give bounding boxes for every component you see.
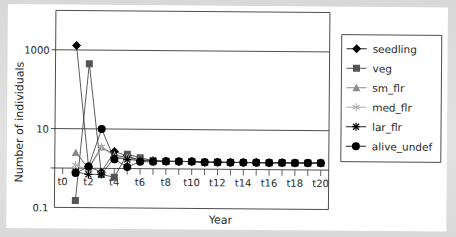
alive_undef-marker [291,159,299,167]
legend-veg-marker [353,65,360,72]
legend-label: lar_flr [372,121,403,134]
legend-lar_flr-marker [352,123,360,131]
alive_undef-marker [162,157,170,165]
alive_undef-marker [149,158,157,166]
lar_flr-marker [123,155,131,163]
legend-label: sm_flr [372,82,405,95]
x-axis-label: Year [208,214,233,227]
legend: seedlingvegsm_flrmed_flrlar_flralive_und… [341,35,442,163]
x-tick-label: t18 [286,178,303,189]
scan-background: 0.1101000 t0t2t4t6t8t10t12t14t16t18t20 N… [0,0,456,237]
alive_undef-marker [84,163,92,171]
alive_undef-marker [188,158,196,166]
alive_undef-marker [265,159,273,167]
alive_undef-marker [98,125,106,133]
x-tick-label: t14 [235,177,252,188]
alive_undef-marker [123,163,131,171]
alive_undef-marker [201,158,209,166]
x-tick-label: t10 [183,177,200,188]
alive_undef-marker [110,155,118,163]
x-tick-label: t6 [135,177,145,188]
y-tick-label: 1000 [24,45,50,56]
chart-sheet: 0.1101000 t0t2t4t6t8t10t12t14t16t18t20 N… [6,4,448,231]
x-tick-label: t16 [261,178,278,189]
x-tick-label: t0 [57,176,67,187]
y-axis-ticks: 0.1101000 [23,45,50,214]
y-axis-label: Number of individuals [13,61,27,182]
y-tick-label: 10 [36,123,49,134]
alive_undef-marker [239,158,247,166]
y-tick-label: 0.1 [32,202,48,213]
lar_flr-marker [97,170,105,178]
legend-label: alive_undef [372,140,433,153]
veg-marker [72,197,79,204]
legend-alive_undef-marker [352,142,360,150]
alive_undef-marker [214,158,222,166]
alive_undef-marker [304,159,312,167]
alive_undef-marker [252,159,260,167]
veg-marker [86,60,93,67]
x-tick-label: t12 [209,177,226,188]
line-chart: 0.1101000 t0t2t4t6t8t10t12t14t16t18t20 N… [6,4,448,231]
alive_undef-marker [317,159,325,167]
x-tick-label: t8 [161,177,171,188]
alive_undef-marker [72,169,80,177]
lar_flr-marker [84,170,92,178]
veg-marker [111,174,118,181]
x-tick-label: t20 [312,178,329,189]
legend-label: seedling [373,43,417,55]
alive_undef-marker [175,157,183,165]
legend-label: med_flr [372,101,412,114]
legend-label: veg [372,62,391,74]
alive_undef-marker [136,158,144,166]
alive_undef-marker [226,158,234,166]
alive_undef-marker [278,159,286,167]
